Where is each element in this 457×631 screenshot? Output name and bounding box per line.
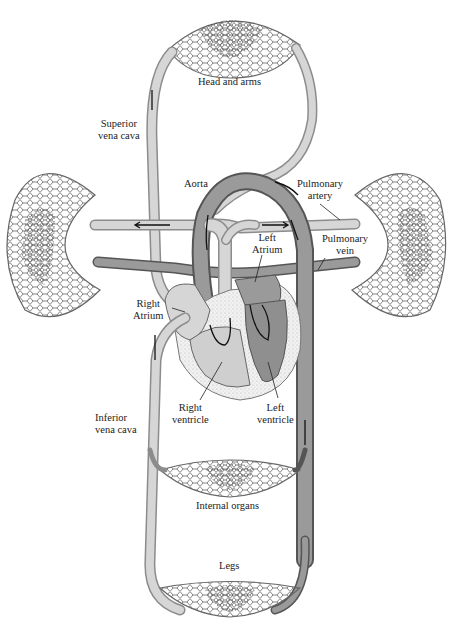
label-line: Pulmonary bbox=[322, 233, 368, 245]
label-superior-vena-cava: Superior vena cava bbox=[98, 118, 140, 142]
label-pulmonary-vein: Pulmonary vein bbox=[322, 233, 368, 257]
label-right-ventricle: Right ventricle bbox=[172, 402, 209, 426]
circulatory-system-diagram: Head and arms Superior vena cava Aorta P… bbox=[0, 0, 457, 631]
label-pulmonary-artery: Pulmonary artery bbox=[297, 178, 343, 202]
label-line: ventricle bbox=[257, 414, 294, 426]
label-left-ventricle: Left ventricle bbox=[257, 402, 294, 426]
label-line: Left bbox=[257, 402, 294, 414]
left-lung-capillary-bed bbox=[7, 174, 100, 317]
internal-organs-capillary-bed bbox=[150, 450, 305, 497]
label-line: Right bbox=[172, 402, 209, 414]
label-line: Atrium bbox=[133, 310, 163, 322]
diagram-artwork bbox=[0, 0, 457, 631]
label-right-atrium: Right Atrium bbox=[133, 298, 163, 322]
label-inferior-vena-cava: Inferior vena cava bbox=[95, 412, 137, 436]
label-left-atrium: Left Atrium bbox=[252, 232, 282, 256]
label-internal-organs: Internal organs bbox=[196, 500, 259, 512]
label-line: Right bbox=[133, 298, 163, 310]
label-line: Left bbox=[252, 232, 282, 244]
label-line: vena cava bbox=[98, 130, 140, 142]
head-arms-capillary-bed bbox=[168, 20, 300, 78]
label-line: Inferior bbox=[95, 412, 137, 424]
label-line: Atrium bbox=[252, 244, 282, 256]
label-line: vena cava bbox=[95, 424, 137, 436]
label-line: ventricle bbox=[172, 414, 209, 426]
label-line: vein bbox=[322, 245, 368, 257]
heart bbox=[165, 275, 301, 400]
label-line: Pulmonary bbox=[297, 178, 343, 190]
label-head-and-arms: Head and arms bbox=[198, 76, 261, 88]
label-line: Superior bbox=[98, 118, 140, 130]
label-aorta: Aorta bbox=[184, 178, 208, 190]
label-legs: Legs bbox=[219, 560, 239, 572]
label-line: artery bbox=[297, 190, 343, 202]
